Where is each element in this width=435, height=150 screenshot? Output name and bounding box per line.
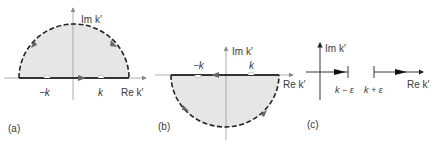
pole-label-k: k (98, 87, 104, 98)
contour-diagrams: Im k′ Re k′ −k k (a) Im k′ Re k′ −k k (b… (0, 0, 435, 150)
lower-half-region (171, 75, 279, 127)
panel-label-a: (a) (8, 123, 20, 134)
pole-k-indent (248, 72, 254, 75)
panel-b: Im k′ Re k′ −k k (b) (155, 46, 306, 140)
pole-minus-k-indent (195, 75, 201, 78)
panel-c: Im k′ Re k′ k − ε k + ε (c) (306, 43, 430, 130)
pole-k-indent (98, 75, 104, 78)
direction-arrow-right-segment-icon (395, 69, 407, 75)
pole-minus-k-indent (44, 75, 50, 78)
upper-half-region (19, 24, 129, 78)
pole-label-k: k (249, 60, 255, 71)
im-axis-label: Im k′ (232, 46, 253, 57)
pole-label-minus-k: −k (193, 60, 205, 71)
endpoint-label-k-plus-epsilon: k + ε (364, 85, 384, 95)
direction-arrow-left-segment-icon (334, 69, 346, 75)
panel-a: Im k′ Re k′ −k k (a) (4, 8, 146, 134)
re-axis-label: Re k′ (283, 79, 306, 90)
endpoint-label-k-minus-epsilon: k − ε (335, 85, 355, 95)
re-axis-label: Re k′ (121, 87, 144, 98)
im-axis-label: Im k′ (325, 43, 346, 54)
re-axis-label: Re k′ (407, 79, 430, 90)
pole-label-minus-k: −k (39, 87, 51, 98)
im-axis-label: Im k′ (81, 14, 102, 25)
panel-label-b: (b) (158, 121, 170, 132)
panel-label-c: (c) (307, 119, 319, 130)
